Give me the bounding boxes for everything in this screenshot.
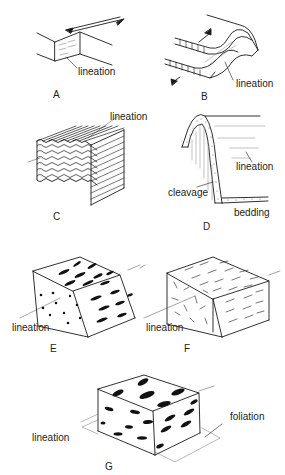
panel-e-caption: E (50, 344, 57, 354)
panel-d-caption: D (203, 222, 210, 232)
panel-f-lineation-label: lineation (146, 323, 183, 333)
panel-e-lineation-label: lineation (12, 323, 49, 333)
panel-d-cleavage-label: cleavage (168, 188, 208, 198)
panel-g-caption: G (105, 462, 113, 472)
panel-g-foliation-label: foliation (230, 412, 264, 422)
geology-lineation-diagram (0, 0, 285, 475)
panel-a-caption: A (53, 90, 60, 100)
panel-b-lineation-label: lineation (236, 79, 273, 89)
panel-g-drawing (81, 375, 222, 462)
panel-d-lineation-label: lineation (236, 162, 273, 172)
panel-g-lineation-label: lineation (32, 433, 69, 443)
panel-b-caption: B (201, 92, 208, 102)
panel-a-drawing (37, 17, 124, 68)
panel-d-bedding-label: bedding (234, 208, 270, 218)
panel-f-caption: F (184, 344, 190, 354)
panel-a-lineation-label: lineation (78, 67, 115, 77)
panel-c-lineation-label: lineation (110, 112, 147, 122)
panel-c-drawing (28, 116, 124, 205)
panel-b-drawing (165, 15, 258, 85)
panel-c-caption: C (53, 212, 60, 222)
